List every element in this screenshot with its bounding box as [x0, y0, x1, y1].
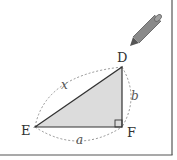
- triangle-diagram: D E F x b a: [0, 0, 177, 160]
- side-label-a: a: [76, 133, 83, 147]
- vertex-label-e: E: [21, 123, 31, 138]
- side-label-b: b: [131, 89, 139, 103]
- vertex-label-f: F: [127, 125, 136, 140]
- vertex-label-d: D: [117, 50, 127, 65]
- dashed-arc-b: [122, 67, 131, 127]
- triangle-def: [35, 67, 122, 127]
- side-label-x: x: [61, 78, 68, 92]
- pencil-icon: [130, 13, 163, 46]
